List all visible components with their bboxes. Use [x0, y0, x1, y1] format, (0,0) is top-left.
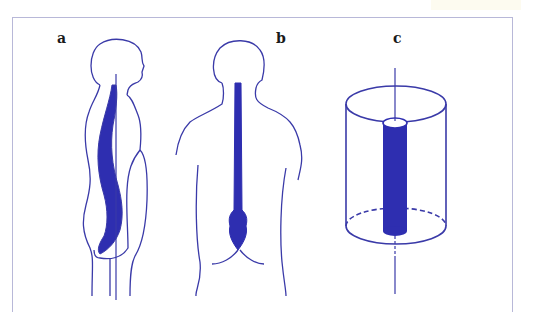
figure-drawing [0, 0, 533, 312]
panel-a-spine [98, 85, 122, 254]
panel-a-side-body [83, 39, 147, 296]
panel-c-inner-rod [383, 118, 407, 236]
panel-b-spine [229, 83, 247, 250]
